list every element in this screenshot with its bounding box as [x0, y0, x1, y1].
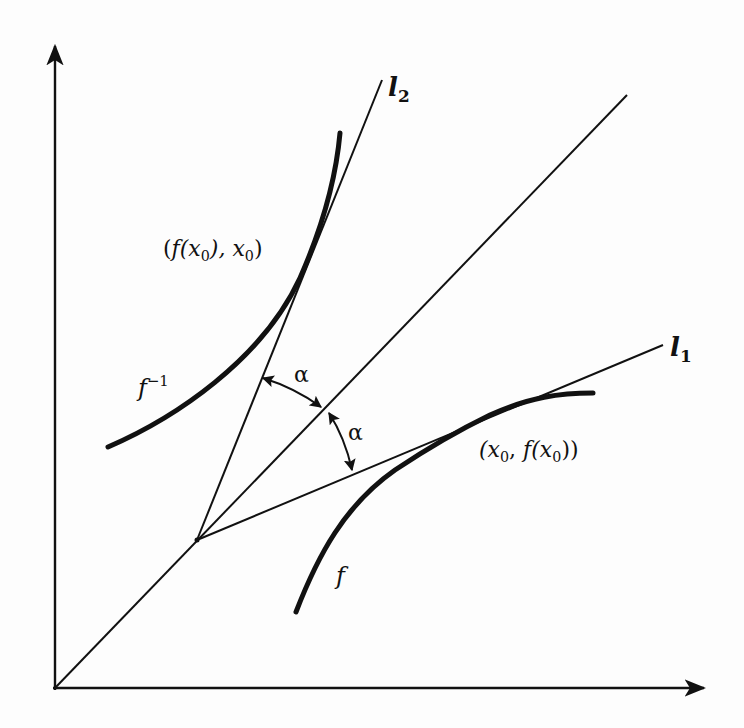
label-angle-alpha-upper: α: [294, 362, 309, 387]
label-l2-name: l: [388, 72, 398, 102]
x-symbol-2: (x: [531, 437, 552, 462]
diagram-canvas: l2 l1 (f(x0), x0) (x0, f(x0)) f−1 f α α: [0, 0, 744, 728]
label-l1-subscript: 1: [680, 346, 692, 366]
label-l2-subscript: 2: [398, 86, 410, 106]
x-symbol-2: ), x: [210, 236, 245, 261]
paren-close: )): [561, 437, 578, 462]
subscript-zero-2: 0: [552, 449, 561, 465]
intersection-point: [195, 538, 200, 543]
label-l2: l2: [388, 72, 410, 106]
label-angle-alpha-lower: α: [348, 420, 363, 445]
label-inverse-point: (f(x0), x0): [163, 236, 263, 264]
label-f: f: [336, 562, 345, 590]
subscript-zero: 0: [500, 449, 509, 465]
comma: ,: [509, 437, 523, 462]
label-function-point: (x0, f(x0)): [479, 437, 579, 465]
subscript-zero: 0: [201, 248, 210, 264]
x-symbol: (x: [180, 236, 201, 261]
alpha-symbol: α: [348, 420, 363, 445]
label-l1-name: l: [670, 332, 680, 362]
superscript-minus-one: −1: [147, 372, 169, 390]
f-symbol: f: [138, 374, 147, 402]
subscript-zero-2: 0: [245, 248, 254, 264]
x-symbol: (x: [479, 437, 500, 462]
alpha-symbol: α: [294, 362, 309, 387]
angle-arc-upper: [263, 378, 321, 407]
diagram-svg: [0, 0, 744, 728]
f-symbol: f: [172, 236, 180, 261]
paren-close: ): [254, 236, 263, 261]
tangent-line-l2: [197, 80, 382, 540]
label-f-inverse: f−1: [138, 372, 169, 402]
tangent-line-l1: [197, 345, 663, 540]
label-l1: l1: [670, 332, 692, 366]
f-symbol: f: [336, 562, 345, 590]
paren-open: (: [163, 236, 172, 261]
